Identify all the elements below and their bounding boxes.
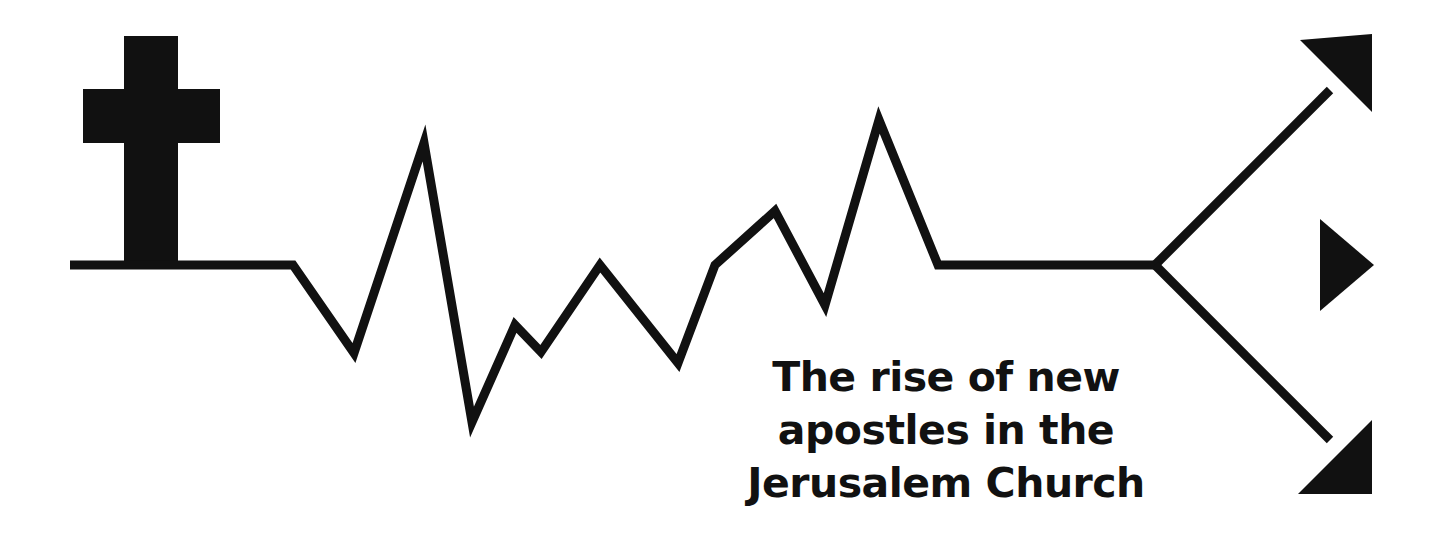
tagline-line-3: Jerusalem Church [744,459,1145,507]
tagline-line-1: The rise of new [772,353,1120,401]
tagline-line-2: apostles in the [778,406,1114,454]
tagline-block: The rise of new apostles in the Jerusale… [744,353,1145,507]
logo-artwork: The rise of new apostles in the Jerusale… [0,0,1435,540]
logo-canvas: The rise of new apostles in the Jerusale… [0,0,1435,540]
